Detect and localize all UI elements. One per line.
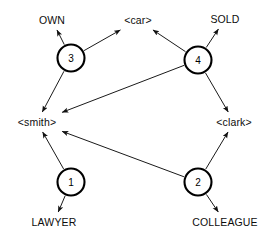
- concept-label-colleague: COLLEAGUE: [192, 216, 258, 228]
- graph-edge: [206, 194, 218, 212]
- graph-node-4[interactable]: 4: [185, 47, 212, 74]
- graph-edge: [153, 30, 186, 52]
- graph-edge: [206, 29, 218, 47]
- graph-edge: [62, 65, 184, 112]
- concept-label-own: OWN: [39, 14, 65, 26]
- graph-node-2[interactable]: 2: [185, 169, 212, 196]
- graph-edge: [43, 132, 64, 169]
- concept-label-sold: SOLD: [210, 13, 239, 25]
- graph-node-1[interactable]: 1: [58, 169, 85, 196]
- graph-node-3[interactable]: 3: [58, 45, 85, 72]
- concept-label-car: <car>: [124, 14, 152, 26]
- graph-edge: [206, 73, 229, 112]
- semantic-network-graph: 3412 OWN<car>SOLD<smith><clark>LAWYERCOL…: [0, 0, 273, 241]
- figure-root: 3412 OWN<car>SOLD<smith><clark>LAWYERCOL…: [0, 0, 273, 241]
- node-number-label: 1: [68, 177, 74, 188]
- graph-edge: [42, 71, 64, 112]
- node-number-label: 4: [195, 55, 201, 66]
- nodes-layer: 3412: [58, 45, 212, 196]
- concept-label-lawyer: LAWYER: [32, 216, 77, 228]
- graph-edge: [206, 132, 228, 169]
- graph-edge: [58, 196, 65, 212]
- concept-label-smith: <smith>: [18, 116, 56, 128]
- graph-edge: [57, 30, 64, 45]
- graph-edge: [62, 131, 184, 176]
- node-number-label: 2: [195, 177, 201, 188]
- concept-label-clark: <clark>: [216, 116, 251, 128]
- node-number-label: 3: [68, 53, 74, 64]
- graph-edge: [84, 30, 120, 51]
- labels-layer: OWN<car>SOLD<smith><clark>LAWYERCOLLEAGU…: [18, 13, 258, 228]
